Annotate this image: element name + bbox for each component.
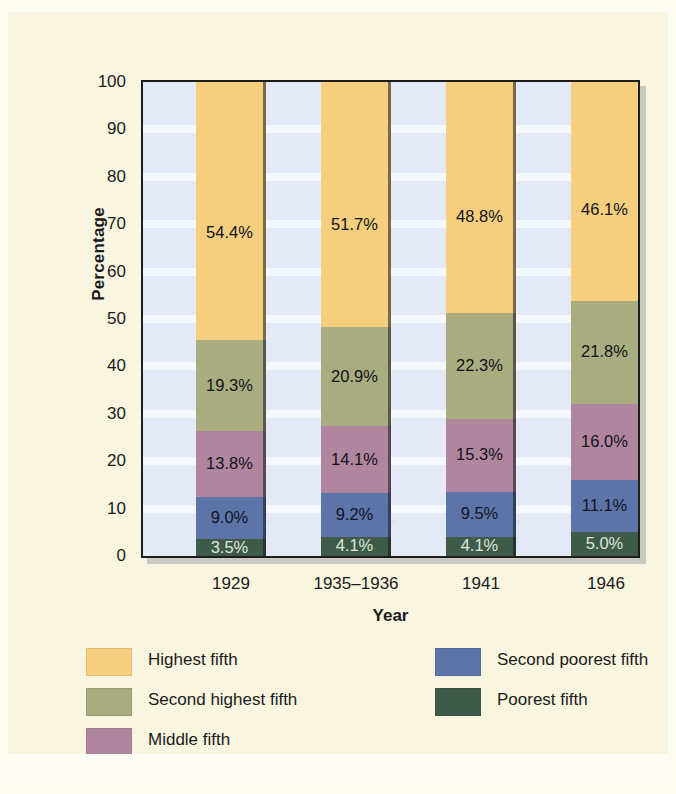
bar-segment-second-highest-fifth[interactable]: 21.8%: [571, 301, 640, 404]
bar-segment-middle-fifth[interactable]: 16.0%: [571, 404, 640, 480]
bar-value-label: 4.1%: [446, 537, 513, 554]
legend-label: Highest fifth: [148, 650, 238, 670]
y-axis-tick-90: 90: [64, 119, 126, 139]
x-axis-tick-1946: 1946: [536, 574, 676, 594]
bar-value-label: 14.1%: [321, 451, 388, 468]
bar-segment-second-poorest-fifth[interactable]: 9.2%: [321, 493, 391, 537]
bar-value-label: 15.3%: [446, 446, 513, 463]
page-bottom-edge: [8, 754, 668, 780]
y-axis-tick-0: 0: [64, 546, 126, 566]
y-axis-tick-100: 100: [64, 72, 126, 92]
bar-value-label: 51.7%: [321, 216, 388, 233]
bar-segment-second-highest-fifth[interactable]: 20.9%: [321, 327, 391, 426]
bar-value-label: 3.5%: [196, 539, 263, 556]
bar-value-label: 9.0%: [196, 509, 263, 526]
legend-swatch-icon: [86, 688, 132, 716]
legend-label: Second highest fifth: [148, 690, 297, 710]
bar-segment-highest-fifth[interactable]: 48.8%: [446, 82, 516, 313]
bar-segment-poorest-fifth[interactable]: 3.5%: [196, 539, 266, 556]
legend-swatch-icon: [435, 648, 481, 676]
bar-value-label: 48.8%: [446, 208, 513, 225]
bar-segment-poorest-fifth[interactable]: 5.0%: [571, 532, 640, 556]
legend-swatch-icon: [86, 728, 132, 756]
x-axis-tick-1941: 1941: [411, 574, 551, 594]
legend-label: Second poorest fifth: [497, 650, 648, 670]
y-axis-tick-20: 20: [64, 451, 126, 471]
bar-segment-second-poorest-fifth[interactable]: 11.1%: [571, 480, 640, 533]
bar-value-label: 11.1%: [571, 497, 638, 514]
legend-label: Middle fifth: [148, 730, 230, 750]
x-axis-title: Year: [141, 606, 640, 626]
y-axis-tick-70: 70: [64, 214, 126, 234]
bar-value-label: 54.4%: [196, 224, 263, 241]
y-axis-tick-60: 60: [64, 262, 126, 282]
bar-segment-second-poorest-fifth[interactable]: 9.0%: [196, 497, 266, 540]
bar-value-label: 21.8%: [571, 343, 638, 360]
legend-label: Poorest fifth: [497, 690, 588, 710]
bar-value-label: 22.3%: [446, 357, 513, 374]
bar-1929[interactable]: 3.5%9.0%13.8%19.3%54.4%: [196, 82, 266, 556]
bar-1946[interactable]: 5.0%11.1%16.0%21.8%46.1%: [571, 82, 640, 556]
y-axis-tick-10: 10: [64, 499, 126, 519]
bar-value-label: 16.0%: [571, 433, 638, 450]
legend-swatch-icon: [435, 688, 481, 716]
y-axis-tick-50: 50: [64, 309, 126, 329]
x-axis-tick-1929: 1929: [161, 574, 301, 594]
bar-value-label: 5.0%: [571, 535, 638, 552]
bar-value-label: 46.1%: [571, 201, 638, 218]
bar-value-label: 9.5%: [446, 505, 513, 522]
bar-segment-highest-fifth[interactable]: 51.7%: [321, 82, 391, 327]
y-axis-tick-40: 40: [64, 356, 126, 376]
bar-segment-second-highest-fifth[interactable]: 19.3%: [196, 340, 266, 431]
x-axis-tick-1935–1936: 1935–1936: [286, 574, 426, 594]
bar-1941[interactable]: 4.1%9.5%15.3%22.3%48.8%: [446, 82, 516, 556]
y-axis-tick-80: 80: [64, 167, 126, 187]
plot-panel: 3.5%9.0%13.8%19.3%54.4%4.1%9.2%14.1%20.9…: [141, 80, 640, 558]
chart-legend: Highest fifthSecond highest fifthMiddle …: [8, 642, 668, 762]
bar-segment-middle-fifth[interactable]: 14.1%: [321, 426, 391, 493]
bar-segment-highest-fifth[interactable]: 54.4%: [196, 82, 266, 340]
bar-value-label: 13.8%: [196, 455, 263, 472]
bar-value-label: 9.2%: [321, 506, 388, 523]
y-axis-tick-30: 30: [64, 404, 126, 424]
bar-segment-middle-fifth[interactable]: 15.3%: [446, 419, 516, 492]
bar-value-label: 20.9%: [321, 368, 388, 385]
bar-segment-highest-fifth[interactable]: 46.1%: [571, 82, 640, 301]
bar-segment-middle-fifth[interactable]: 13.8%: [196, 431, 266, 496]
bar-value-label: 4.1%: [321, 537, 388, 554]
bar-segment-poorest-fifth[interactable]: 4.1%: [446, 537, 516, 556]
chart-figure: Percentage 1009080706050403020100 3.5%9.…: [8, 12, 668, 780]
bar-segment-poorest-fifth[interactable]: 4.1%: [321, 537, 391, 556]
bar-1935–1936[interactable]: 4.1%9.2%14.1%20.9%51.7%: [321, 82, 391, 556]
legend-swatch-icon: [86, 648, 132, 676]
bar-segment-second-poorest-fifth[interactable]: 9.5%: [446, 492, 516, 537]
bar-segment-second-highest-fifth[interactable]: 22.3%: [446, 313, 516, 419]
bar-value-label: 19.3%: [196, 377, 263, 394]
